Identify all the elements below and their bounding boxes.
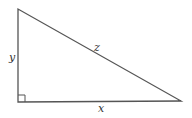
label-x: x xyxy=(98,102,105,115)
label-z: z xyxy=(93,41,100,54)
right-triangle xyxy=(18,9,181,102)
right-angle-marker xyxy=(18,95,25,102)
label-y: y xyxy=(8,51,16,64)
triangle-diagram: y z x xyxy=(0,0,192,118)
